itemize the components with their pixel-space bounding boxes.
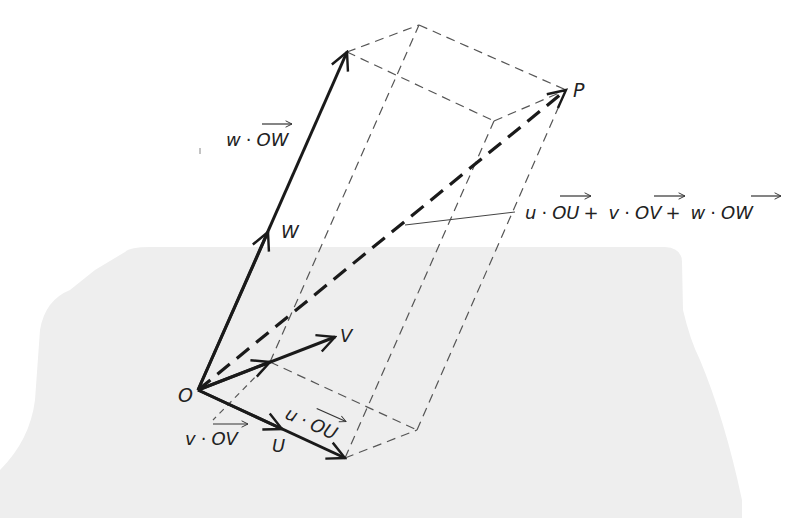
svg-text:w·OW: w·OW [226, 129, 290, 150]
label-u: U [272, 435, 285, 456]
label-origin: O [178, 384, 193, 406]
svg-text:u·OU+v·OV+w·OW: u·OU+v·OV+w·OW [525, 202, 754, 223]
vector-diagram: O P W V U w·OW v·OV u·OU u·OU+v·OV+w·OW [0, 0, 806, 530]
svg-text:v·OV: v·OV [185, 428, 240, 449]
label-w-times-ow: w·OW [226, 124, 292, 150]
label-w: W [281, 221, 300, 242]
base-plane [0, 247, 742, 518]
expression-leader-line [405, 212, 515, 225]
label-p: P [573, 79, 585, 101]
label-v: V [340, 325, 354, 346]
label-sum-expression: u·OU+v·OV+w·OW [525, 196, 781, 223]
